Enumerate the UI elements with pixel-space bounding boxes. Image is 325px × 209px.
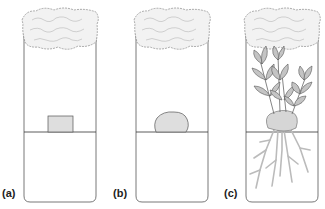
roots bbox=[250, 128, 310, 188]
callus bbox=[155, 112, 189, 132]
tissue-culture-diagram bbox=[0, 0, 325, 209]
culture-tube-a bbox=[22, 8, 98, 202]
panel-label-b: (b) bbox=[113, 187, 127, 199]
culture-tube-c bbox=[244, 8, 320, 202]
explant bbox=[48, 116, 73, 132]
panel-label-a: (a) bbox=[2, 187, 15, 199]
panel-label-c: (c) bbox=[224, 187, 237, 199]
leaves bbox=[252, 46, 312, 106]
culture-tube-b bbox=[134, 8, 210, 202]
